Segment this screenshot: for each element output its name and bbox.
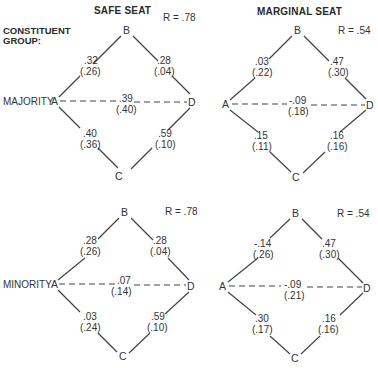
node-c: C xyxy=(119,350,127,362)
edge-cd-value: .16 xyxy=(322,313,336,324)
node-a: A xyxy=(51,95,58,107)
edge-ac-value: .15 xyxy=(254,130,268,141)
panel-majority-safe: B C D MAJORITY A R = .78 .32 (.26) .28 (… xyxy=(3,12,196,182)
edge-ab-paren: (.26) xyxy=(80,66,101,77)
edge-ab-paren: (.26) xyxy=(80,246,101,257)
edge-bd-paren: (.30) xyxy=(319,249,340,260)
edge-ac-paren: (.36) xyxy=(80,139,101,150)
edge-ab-paren: (.22) xyxy=(252,67,273,78)
panel-minority-safe: B C D MINORITY A R = .78 .28 (.26) .28 (… xyxy=(3,206,198,362)
edge-cd-paren: (.10) xyxy=(155,139,176,150)
edge-cd-value: .59 xyxy=(158,128,172,139)
edge-ad-value: .39 xyxy=(119,93,133,104)
edge-ad-value: .07 xyxy=(117,275,131,286)
panel-minority-marginal: B A C D R = .54 -.14 (.26) .47 (.30) -.0… xyxy=(219,207,371,364)
node-b: B xyxy=(121,206,128,218)
edge-ab-paren: (.26) xyxy=(253,249,274,260)
edge-bd-paren: (.04) xyxy=(154,66,175,77)
r-value: R = .54 xyxy=(337,208,370,219)
r-value: R = .78 xyxy=(163,12,196,23)
node-d: D xyxy=(187,280,195,292)
edge-ad-value: -.09 xyxy=(289,95,307,106)
node-a: A xyxy=(51,278,58,290)
edge-ac-value: .03 xyxy=(83,311,97,322)
r-value: R = .78 xyxy=(165,206,198,217)
node-d: D xyxy=(188,96,196,108)
panel-majority-marginal: B A C D R = .54 .03 (.22) .47 (.30) -.09… xyxy=(222,24,374,183)
edge-ad-paren: (.40) xyxy=(116,104,137,115)
diagram-canvas: B C D MAJORITY A R = .78 .32 (.26) .28 (… xyxy=(0,0,378,368)
node-b: B xyxy=(292,207,299,219)
edge-ab-value: .28 xyxy=(83,235,97,246)
node-a: A xyxy=(222,98,229,110)
edge-bd-value: .47 xyxy=(330,56,344,67)
node-b: B xyxy=(294,24,301,36)
edge-ac-paren: (.11) xyxy=(252,141,272,152)
edge-ab-value: .32 xyxy=(84,55,98,66)
edge-ab-value: .03 xyxy=(255,56,269,67)
node-a: A xyxy=(219,280,226,292)
edge-bd-paren: (.04) xyxy=(150,246,171,257)
node-b: B xyxy=(123,24,130,36)
edge-ab-value: -.14 xyxy=(254,238,272,249)
edge-ad-paren: (.14) xyxy=(111,286,132,297)
node-c: C xyxy=(292,171,300,183)
edge-ac-value: .30 xyxy=(255,313,269,324)
edge-cd-paren: (.10) xyxy=(147,322,168,333)
edge-ad-paren: (.21) xyxy=(284,290,305,301)
node-c: C xyxy=(115,170,123,182)
edge-cd-value: .16 xyxy=(330,130,344,141)
edge-ac-value: .40 xyxy=(83,128,97,139)
edge-ad-paren: (.18) xyxy=(288,106,309,117)
edge-cd-paren: (.16) xyxy=(327,141,348,152)
edge-ac-paren: (.24) xyxy=(80,322,101,333)
edge-ad-value: -.09 xyxy=(284,279,302,290)
edge-bd-value: .28 xyxy=(153,235,167,246)
row-label-majority: MAJORITY xyxy=(3,96,54,107)
node-c: C xyxy=(291,352,299,364)
node-d: D xyxy=(363,282,371,294)
edge-bd-paren: (.30) xyxy=(328,67,349,78)
r-value: R = .54 xyxy=(338,25,371,36)
node-d: D xyxy=(366,99,374,111)
edge-cd-value: .59 xyxy=(151,311,165,322)
row-label-minority: MINORITY xyxy=(3,279,52,290)
edge-ac-paren: (.17) xyxy=(252,324,273,335)
edge-cd-paren: (.16) xyxy=(318,324,339,335)
edge-bd-value: .28 xyxy=(157,55,171,66)
edge-bd-value: .47 xyxy=(322,238,336,249)
